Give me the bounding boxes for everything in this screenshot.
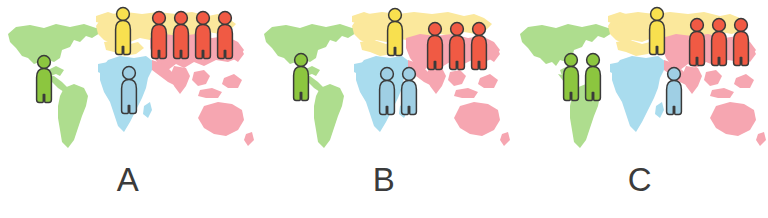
person-icon	[376, 66, 398, 118]
person-icon	[663, 66, 685, 118]
africa-group	[663, 66, 685, 118]
figure-root: A	[0, 0, 768, 218]
person-icon	[424, 21, 446, 73]
europe-group	[646, 6, 668, 58]
person-icon	[148, 10, 170, 62]
panel-label: B	[256, 158, 512, 202]
panel-a: A	[0, 0, 256, 218]
figure-overlay	[256, 0, 512, 160]
person-icon	[214, 10, 236, 62]
panel-label: C	[512, 158, 768, 202]
africa-group	[376, 66, 420, 118]
person-icon	[290, 52, 312, 104]
person-icon	[646, 6, 668, 58]
person-icon	[730, 17, 752, 69]
person-icon	[192, 10, 214, 62]
europe-group	[384, 7, 406, 59]
person-icon	[708, 17, 730, 69]
asia-group	[148, 10, 236, 62]
europe-group	[112, 6, 134, 58]
figure-overlay	[0, 0, 256, 160]
person-icon	[446, 21, 468, 73]
asia-group	[686, 17, 752, 69]
person-icon	[398, 66, 420, 118]
person-icon	[170, 10, 192, 62]
person-icon	[384, 7, 406, 59]
panel-b: B	[256, 0, 512, 218]
person-icon	[33, 54, 55, 106]
africa-group	[118, 65, 140, 117]
person-icon	[582, 52, 604, 104]
person-icon	[118, 65, 140, 117]
americas-group	[33, 54, 55, 106]
person-icon	[468, 21, 490, 73]
figure-overlay	[512, 0, 768, 160]
person-icon	[112, 6, 134, 58]
person-icon	[560, 52, 582, 104]
panel-label: A	[0, 158, 256, 202]
panel-c: C	[512, 0, 768, 218]
americas-group	[560, 52, 604, 104]
americas-group	[290, 52, 312, 104]
person-icon	[686, 17, 708, 69]
asia-group	[424, 21, 490, 73]
